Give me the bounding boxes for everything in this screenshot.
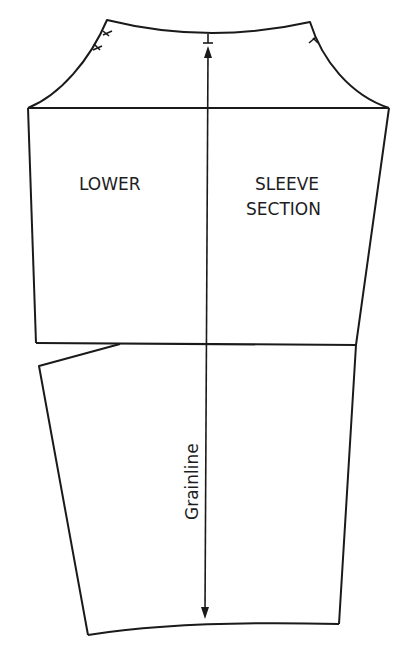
sleeve-label: SLEEVE [255, 174, 319, 194]
sleeve-pattern-diagram: LOWER SLEEVE SECTION Grainline [0, 0, 407, 657]
back-notch-1 [103, 31, 112, 36]
top-center-notch [203, 34, 213, 43]
grainline-arrow [201, 46, 212, 619]
grainline-label: Grainline [182, 443, 202, 520]
arrow-head-down-icon [201, 607, 209, 619]
section-label: SECTION [246, 199, 321, 219]
upper-left-seam [28, 108, 36, 343]
elbow-dart [39, 344, 120, 635]
lower-label: LOWER [79, 174, 141, 194]
section-line [36, 343, 356, 345]
right-seam [339, 108, 389, 624]
arrow-head-up-icon [204, 46, 212, 58]
hem-line [88, 623, 339, 635]
back-notch-2 [93, 44, 102, 50]
